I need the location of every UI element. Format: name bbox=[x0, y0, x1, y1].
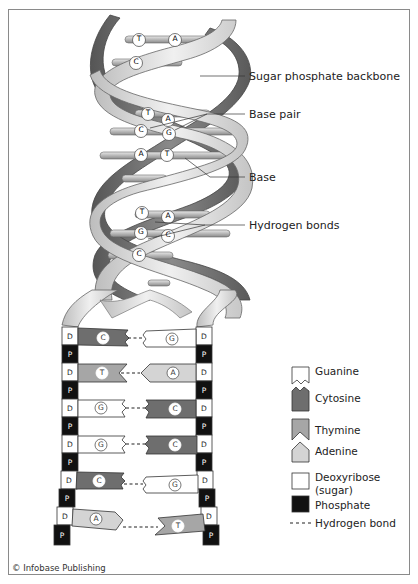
legend-label-adenine: Adenine bbox=[315, 445, 358, 458]
phosphate-swatch-icon bbox=[292, 496, 309, 512]
legend-label-deoxyribose: Deoxyribose bbox=[315, 471, 380, 484]
legend-swatches bbox=[0, 0, 418, 584]
cytosine-swatch-icon bbox=[292, 387, 309, 411]
deoxyribose-swatch-icon bbox=[292, 473, 309, 489]
legend-label-cytosine: Cytosine bbox=[315, 392, 361, 405]
thymine-swatch-icon bbox=[292, 419, 309, 440]
legend-label-guanine: Guanine bbox=[315, 365, 359, 378]
legend-label-hydrogen-bond: Hydrogen bond bbox=[315, 517, 396, 530]
legend-label-phosphate: Phosphate bbox=[315, 499, 370, 512]
guanine-swatch-icon bbox=[292, 367, 309, 384]
legend-label-thymine: Thymine bbox=[315, 424, 361, 437]
legend-label-deoxyribose-sugar: (sugar) bbox=[315, 484, 353, 497]
copyright-credit: © Infobase Publishing bbox=[12, 563, 106, 573]
adenine-swatch-icon bbox=[292, 442, 309, 462]
